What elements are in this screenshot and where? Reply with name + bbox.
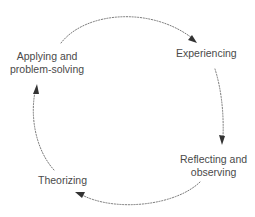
- arrowhead-icon: [33, 84, 39, 94]
- connector-theorizing-to-applying: [33, 84, 54, 170]
- stage-applying-line-2: problem-solving: [10, 63, 84, 76]
- stage-reflecting-line-2: observing: [180, 166, 247, 179]
- arrowhead-icon: [75, 192, 85, 198]
- stage-applying-and-problem-solving: Applying and problem-solving: [10, 50, 84, 75]
- connector-applying-to-experiencing: [61, 17, 197, 43]
- stage-experiencing-line-1: Experiencing: [176, 47, 237, 60]
- connector-experiencing-to-reflecting: [215, 69, 225, 145]
- stage-applying-line-1: Applying and: [10, 50, 84, 63]
- arrowhead-icon: [219, 135, 225, 145]
- stage-experiencing: Experiencing: [176, 47, 237, 60]
- stage-theorizing-line-1: Theorizing: [38, 174, 87, 187]
- stage-reflecting-line-1: Reflecting and: [180, 153, 247, 166]
- connector-reflecting-to-theorizing: [75, 182, 200, 205]
- stage-reflecting-and-observing: Reflecting and observing: [180, 153, 247, 178]
- stage-theorizing: Theorizing: [38, 174, 87, 187]
